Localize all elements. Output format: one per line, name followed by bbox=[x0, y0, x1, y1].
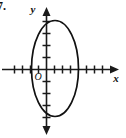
y-axis-label: y bbox=[29, 3, 36, 15]
y-axis-arrow-down-icon bbox=[43, 126, 51, 135]
coordinate-plane-svg: y x O bbox=[0, 0, 126, 138]
x-axis-label: x bbox=[112, 72, 119, 84]
y-axis-arrow-up-icon bbox=[43, 7, 51, 16]
ellipse-figure: 7. bbox=[0, 0, 126, 138]
origin-label: O bbox=[34, 71, 41, 82]
